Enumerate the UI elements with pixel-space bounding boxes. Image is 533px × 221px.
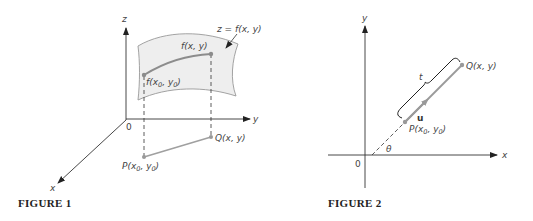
- point-p-label: P(x0, y0): [122, 161, 159, 173]
- point-p: [403, 120, 407, 124]
- z-axis-label: z: [121, 14, 127, 24]
- figures-canvas: z y x 0 z = f(x, y) f(x, y) f(x0, y0) Q(…: [0, 0, 533, 221]
- y-axis-label: y: [361, 13, 368, 23]
- point-q: [460, 63, 464, 67]
- vector-u-label: u: [417, 113, 423, 123]
- x-axis: [58, 120, 126, 183]
- brace-t: [398, 58, 460, 118]
- brace-t-label: t: [419, 72, 423, 82]
- pq-segment: [144, 137, 211, 157]
- y-axis-label: y: [252, 114, 259, 124]
- figure-1-caption: FIGURE 1: [18, 197, 71, 209]
- figure-2-caption: FIGURE 2: [328, 197, 382, 209]
- point-q-label: Q(x, y): [466, 61, 496, 71]
- origin-label: 0: [126, 122, 132, 132]
- x-axis-label: x: [49, 183, 56, 193]
- figure-2: y x 0 θ t u Q(x, y) P(x0, y0) FIGURE 2: [328, 13, 508, 209]
- point-q-label: Q(x, y): [215, 133, 245, 143]
- x-axis-label: x: [501, 150, 508, 160]
- figure-1: z y x 0 z = f(x, y) f(x, y) f(x0, y0) Q(…: [18, 14, 262, 209]
- origin-label: 0: [355, 159, 361, 169]
- point-p: [142, 155, 146, 159]
- point-p-label: P(x0, y0): [409, 124, 446, 136]
- surface-label: z = f(x, y): [216, 24, 262, 34]
- point-q: [209, 135, 213, 139]
- curve-end-point: [209, 52, 213, 56]
- angle-theta-label: θ: [386, 144, 392, 154]
- curve-end-label: f(x, y): [181, 41, 208, 51]
